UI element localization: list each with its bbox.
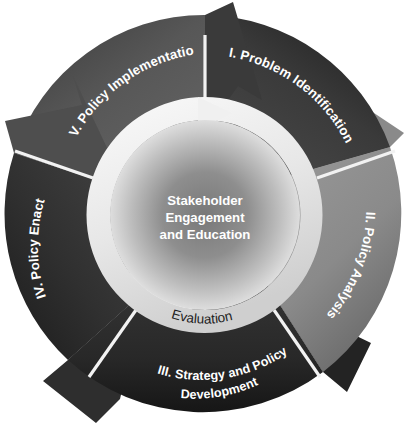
hub-label: Stakeholder Engagement and Education [160, 193, 251, 242]
hub-label-line2: Engagement [165, 210, 245, 225]
cycle-svg: I. Problem Identification II. Policy Ana… [0, 0, 409, 429]
hub-label-line1: Stakeholder [167, 193, 243, 208]
hub-label-line3: and Education [160, 227, 251, 242]
policy-cycle-diagram: I. Problem Identification II. Policy Ana… [0, 0, 409, 429]
